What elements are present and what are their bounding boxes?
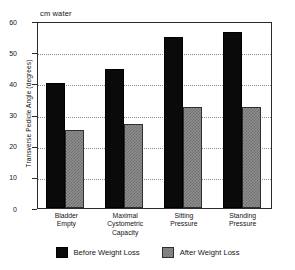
bar[interactable] (164, 37, 183, 208)
legend-label: After Weight Loss (180, 248, 240, 257)
bar-group (46, 23, 84, 208)
y-axis-tick-label: 50 (0, 50, 17, 57)
bar-group (105, 23, 143, 208)
y-axis-tick-label: 20 (0, 143, 17, 150)
bar-chart-figure: cm water Transverse Pedicle Angle (degre… (0, 0, 295, 270)
x-axis-category-line: Standing (213, 212, 272, 220)
plot-area (38, 23, 271, 208)
y-axis-tick-label: 10 (0, 174, 17, 181)
x-axis-category-line: Pressure (213, 220, 272, 228)
legend-item[interactable]: Before Weight Loss (56, 247, 140, 258)
x-axis-category-line: Empty (37, 220, 96, 228)
legend-label: Before Weight Loss (74, 248, 140, 257)
legend-item[interactable]: After Weight Loss (162, 247, 240, 258)
y-axis-title: Transverse Pedicle Angle (degrees) (25, 24, 32, 204)
y-axis-tick-label: 60 (0, 19, 17, 26)
bar-group (223, 23, 261, 208)
x-axis-category-line: Cystometric (96, 220, 155, 228)
y-axis-tick-mark (32, 209, 37, 210)
y-axis-tick-label: 40 (0, 81, 17, 88)
x-axis-category-line: Capacity (96, 229, 155, 237)
bar[interactable] (124, 124, 143, 208)
bar-group (164, 23, 202, 208)
legend-swatch-gray (162, 247, 174, 258)
x-axis-category-line: Maximal (96, 212, 155, 220)
legend-swatch-black (56, 247, 68, 258)
y-axis-tick-label: 30 (0, 112, 17, 119)
plot-frame (37, 22, 272, 209)
x-axis-category-label: BladderEmpty (37, 212, 96, 229)
bar[interactable] (183, 107, 202, 208)
unit-annotation: cm water (40, 9, 72, 18)
x-axis-category-label: SittingPressure (155, 212, 214, 229)
bar[interactable] (105, 69, 124, 208)
x-axis-category-label: StandingPressure (213, 212, 272, 229)
x-axis-category-label: MaximalCystometricCapacity (96, 212, 155, 237)
bar[interactable] (242, 107, 261, 208)
x-axis-category-line: Bladder (37, 212, 96, 220)
x-axis-category-line: Pressure (155, 220, 214, 228)
x-axis-category-line: Sitting (155, 212, 214, 220)
bar[interactable] (46, 83, 65, 208)
bar[interactable] (223, 32, 242, 208)
chart-legend: Before Weight LossAfter Weight Loss (0, 247, 295, 258)
bar[interactable] (65, 130, 84, 208)
y-axis-tick-label: 0 (0, 206, 17, 213)
